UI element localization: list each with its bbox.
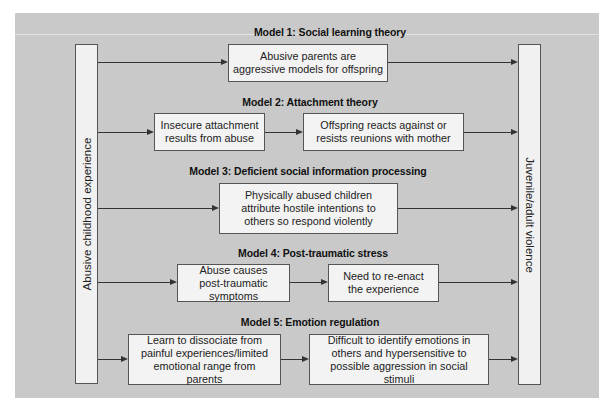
arrowhead-icon	[321, 279, 328, 285]
model-2-arrow-in	[98, 132, 147, 133]
arrowhead-icon	[212, 205, 219, 211]
arrowhead-icon	[296, 129, 303, 135]
model-2-arrow-mid	[265, 132, 296, 133]
model-5-step-1: Learn to dissociate from painful experie…	[128, 334, 281, 385]
source-bar: Abusive childhood experience	[75, 44, 98, 384]
model-2-title: Model 2: Attachment theory	[242, 96, 377, 108]
model-4-title: Model 4: Post-traumatic stress	[238, 247, 388, 259]
arrowhead-icon	[511, 356, 518, 362]
target-bar: Juvenile/adult violence	[518, 44, 541, 385]
model-1-arrow-out	[388, 62, 511, 63]
model-4-step-1: Abuse causes post-traumatic symptoms	[177, 264, 290, 302]
model-5-arrow-mid	[281, 359, 302, 360]
model-4-arrow-mid	[290, 282, 321, 283]
arrowhead-icon	[170, 279, 177, 285]
model-5-arrow-in	[98, 359, 121, 360]
model-5-arrow-out	[489, 359, 511, 360]
model-3-arrow-out	[398, 208, 511, 209]
model-5-title: Model 5: Emotion regulation	[241, 316, 379, 328]
arrowhead-icon	[511, 59, 518, 65]
arrowhead-icon	[121, 356, 128, 362]
target-label: Juvenile/adult violence	[524, 157, 536, 273]
arrowhead-icon	[511, 279, 518, 285]
arrowhead-icon	[302, 356, 309, 362]
model-1-step-1: Abusive parents are aggressive models fo…	[228, 44, 388, 82]
model-4-step-2: Need to re-enact the experience	[328, 264, 439, 302]
model-3-title: Model 3: Deficient social information pr…	[189, 165, 426, 177]
model-2-step-1: Insecure attachment results from abuse	[154, 113, 265, 151]
model-3-arrow-in	[98, 208, 212, 209]
arrowhead-icon	[147, 129, 154, 135]
arrowhead-icon	[511, 129, 518, 135]
model-4-arrow-in	[98, 282, 170, 283]
arrowhead-icon	[511, 205, 518, 211]
model-2-arrow-out	[464, 132, 511, 133]
model-2-step-2: Offspring reacts against or resists reun…	[303, 113, 464, 151]
source-label: Abusive childhood experience	[81, 138, 93, 291]
arrowhead-icon	[221, 59, 228, 65]
model-1-title: Model 1: Social learning theory	[254, 26, 406, 38]
model-3-step-1: Physically abused children attribute hos…	[219, 183, 398, 234]
model-1-arrow-in	[98, 62, 221, 63]
model-5-step-2: Difficult to identify emotions in others…	[309, 334, 489, 385]
model-4-arrow-out	[439, 282, 511, 283]
